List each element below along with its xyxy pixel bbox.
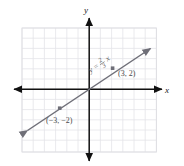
point-marker-neg3-neg2 xyxy=(58,106,62,110)
coordinate-plane-figure: x y (3, 2) (−3, −2) y = 2 3 x xyxy=(0,0,184,166)
point-label-3-2: (3, 2) xyxy=(118,69,136,78)
graph-svg: x y (3, 2) (−3, −2) y = 2 3 x xyxy=(0,0,184,166)
point-marker-3-2 xyxy=(111,66,115,70)
y-axis-label: y xyxy=(83,5,88,15)
x-axis-label: x xyxy=(164,85,169,95)
point-label-neg3-neg2: (−3, −2) xyxy=(46,116,73,125)
